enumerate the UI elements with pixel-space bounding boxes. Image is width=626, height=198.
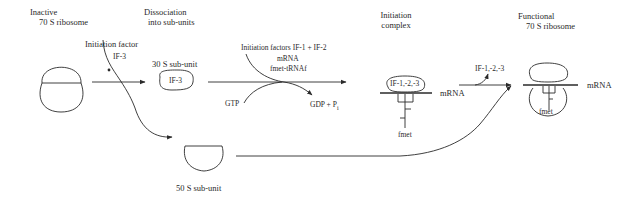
stage-inactive-line2: 70 S ribosome xyxy=(30,17,88,27)
stage-dissociation-label: Dissociation into sub-units xyxy=(144,7,195,27)
subunit-50s-label: 50 S sub-unit xyxy=(176,183,221,193)
gtp-in-arrow xyxy=(244,82,282,103)
stage-initiation-line1: Initiation xyxy=(366,10,426,20)
complex-inner-label: IF-1,-2,-3 xyxy=(390,79,419,88)
stage-dissociation-line2: into sub-units xyxy=(144,17,195,27)
stage-initiation-complex-label: Initiation complex xyxy=(366,10,426,30)
mrna-input-label: mRNA xyxy=(277,54,299,63)
if3-label: IF-3 xyxy=(113,52,126,61)
inactive-ribosome-icon xyxy=(40,67,83,112)
subunit-30s-label: 30 S sub-unit xyxy=(152,59,197,69)
stage-inactive-line1: Inactive xyxy=(30,7,88,17)
if3-dot-icon xyxy=(108,69,111,72)
gdp-text: GDP + P xyxy=(310,100,337,109)
stage-functional-label: Functional 70 S ribosome xyxy=(518,11,575,31)
initiation-factor-label: Initiation factor xyxy=(85,39,138,49)
complex-fmet-label: fmet xyxy=(398,130,412,139)
complex-mrna-label: mRNA xyxy=(440,88,465,98)
initiation-factors-label: Initiation factors IF-1 + IF-2 xyxy=(241,43,326,52)
released-factors-label: IF-1,-2,-3 xyxy=(475,64,504,73)
subunit-30s-inner-label: IF-3 xyxy=(169,76,182,85)
50s-to-functional-arrow xyxy=(236,86,511,156)
stage-functional-line2: 70 S ribosome xyxy=(518,21,575,31)
stage-inactive-label: Inactive 70 S ribosome xyxy=(30,7,88,27)
stage-dissociation-line1: Dissociation xyxy=(144,7,195,17)
subunit-50s-icon xyxy=(184,146,223,171)
factors-release-arrow xyxy=(475,74,488,85)
gdp-subscript: i xyxy=(337,105,339,111)
functional-mrna-label: mRNA xyxy=(587,80,612,90)
gtp-label: GTP xyxy=(225,99,239,108)
gdp-label: GDP + Pi xyxy=(310,100,339,113)
stage-functional-line1: Functional xyxy=(518,11,575,21)
fmet-trna-label: fmet-tRNAf xyxy=(270,64,307,73)
stage-initiation-line2: complex xyxy=(366,20,426,30)
functional-fmet-label: fmet xyxy=(539,107,553,116)
